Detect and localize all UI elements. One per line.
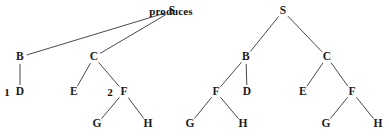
- tree-edge: [221, 62, 242, 86]
- tree-node-g: G: [185, 118, 194, 130]
- tree-edge: [102, 97, 120, 118]
- tree-node-c: C: [90, 51, 99, 63]
- tree-token-2: 2: [107, 87, 113, 98]
- tree-edge: [330, 97, 347, 118]
- tree-edge: [77, 63, 90, 86]
- parse-tree-figure: SBCDEFGH12SBCFDEFGHGH produces: [0, 0, 389, 140]
- tree-edge: [194, 97, 211, 118]
- tree-node-c: C: [323, 51, 332, 63]
- tree-node-f: F: [348, 86, 355, 98]
- tree-node-h: H: [143, 118, 152, 130]
- tree-node-h: H: [373, 118, 382, 130]
- tree-node-f: F: [212, 86, 219, 98]
- tree-node-e: E: [70, 86, 78, 98]
- tree-edge: [100, 15, 166, 54]
- tree-edge: [307, 63, 323, 86]
- tree-node-g: G: [92, 118, 101, 130]
- tree-edge: [128, 98, 144, 119]
- tree-token-1: 1: [4, 87, 10, 98]
- tree-edge: [356, 97, 373, 118]
- tree-node-s: S: [280, 5, 287, 17]
- tree-edge: [331, 63, 348, 87]
- tree-edge: [99, 62, 120, 86]
- tree-node-f: F: [120, 86, 127, 98]
- tree-node-d: D: [243, 86, 252, 98]
- tree-node-g: G: [321, 118, 330, 130]
- tree-edge: [250, 16, 278, 51]
- tree-edge: [246, 64, 247, 85]
- produces-caption: produces: [149, 6, 192, 17]
- tree-node-e: E: [299, 86, 307, 98]
- tree-edge: [288, 16, 322, 52]
- tree-edge: [221, 97, 239, 118]
- tree-node-h: H: [238, 118, 247, 130]
- tree-node-b: B: [16, 51, 24, 63]
- tree-node-b: B: [242, 51, 250, 63]
- tree-node-d: D: [16, 86, 25, 98]
- tree-edge: [27, 13, 166, 55]
